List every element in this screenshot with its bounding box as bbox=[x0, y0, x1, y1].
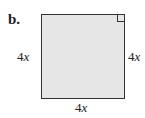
right-side-label: 4x bbox=[128, 49, 140, 65]
left-side-label: 4x bbox=[17, 49, 29, 65]
square-shape bbox=[41, 14, 125, 99]
part-label: b. bbox=[8, 11, 20, 28]
bottom-side-label: 4x bbox=[75, 100, 87, 116]
right-angle-icon bbox=[117, 15, 124, 22]
